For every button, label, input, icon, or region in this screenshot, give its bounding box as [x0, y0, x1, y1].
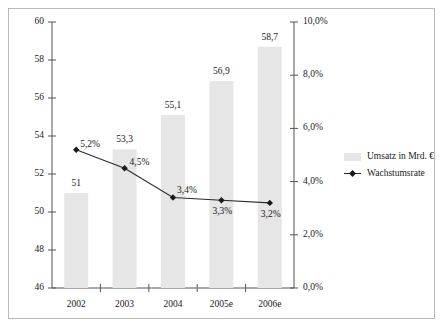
- growth-rate-label-2006e: 3,2%: [261, 210, 281, 220]
- left-axis-tick-54: 54: [16, 131, 44, 141]
- left-axis-tick-46: 46: [16, 283, 44, 293]
- bar-2004: [161, 115, 185, 288]
- bar-2006e: [258, 47, 282, 288]
- left-axis-tick-52: 52: [16, 169, 44, 179]
- left-axis-tick-48: 48: [16, 245, 44, 255]
- left-axis-tick-60: 60: [16, 17, 44, 27]
- bar-value-label-2003: 53,3: [100, 135, 150, 145]
- right-axis-tick-40: 4,0%: [303, 177, 343, 187]
- left-axis-tick-50: 50: [16, 207, 44, 217]
- right-axis-tick-80: 8,0%: [303, 70, 343, 80]
- legend-item-wachstumsrate: Wachstumsrate: [344, 165, 439, 182]
- growth-rate-label-2002: 5,2%: [80, 140, 100, 150]
- chart-plot-area: 4648505254565860 0,0%2,0%4,0%6,0%8,0%10,…: [0, 0, 445, 329]
- left-axis-tick-56: 56: [16, 93, 44, 103]
- growth-rate-label-2005e: 3,3%: [212, 207, 232, 217]
- growth-rate-label-2003: 4,5%: [130, 158, 150, 168]
- bar-2005e: [209, 81, 233, 288]
- x-axis-label-2006e: 2006e: [240, 300, 300, 310]
- bar-2002: [64, 193, 88, 288]
- bar-value-label-2005e: 56,9: [196, 67, 246, 77]
- bar-swatch-icon: [344, 153, 361, 161]
- diamond-marker-icon: [349, 170, 356, 177]
- legend-item-label: Wachstumsrate: [367, 169, 425, 179]
- chart-legend: Umsatz in Mrd. € Wachstumsrate: [344, 148, 439, 182]
- line-marker-swatch-icon: [344, 169, 361, 178]
- left-axis-tick-58: 58: [16, 55, 44, 65]
- right-axis-tick-20: 2,0%: [303, 230, 343, 240]
- bar-value-label-2006e: 58,7: [245, 33, 295, 43]
- growth-rate-label-2004: 3,4%: [177, 186, 197, 196]
- bar-value-label-2004: 55,1: [148, 101, 198, 111]
- legend-item-umsatz: Umsatz in Mrd. €: [344, 148, 439, 165]
- right-axis-tick-00: 0,0%: [303, 283, 343, 293]
- bar-value-label-2002: 51: [51, 179, 101, 189]
- right-axis-tick-60: 6,0%: [303, 123, 343, 133]
- growth-rate-marker-2002: [73, 146, 79, 152]
- legend-item-label: Umsatz in Mrd. €: [367, 152, 434, 162]
- right-axis-tick-100: 10,0%: [303, 17, 343, 27]
